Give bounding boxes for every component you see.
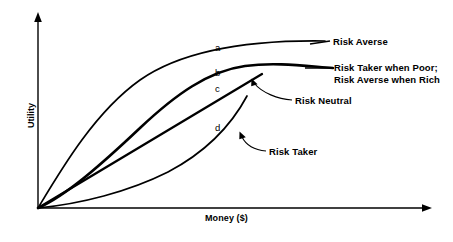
annotation-risk-averse: Risk Averse: [333, 36, 388, 47]
utility-curves-figure: Utility Money ($) a b c d Risk Averse Ri…: [0, 0, 453, 242]
curve-d-risk-taker: [38, 96, 247, 208]
annotation-risk-taker: Risk Taker: [269, 146, 317, 157]
annotation-line-2: Risk Averse when Rich: [334, 74, 440, 86]
curve-label-a: a: [215, 42, 220, 53]
x-axis-arrow-icon: [422, 204, 432, 212]
arrowhead-risk-taker-icon: [239, 132, 246, 140]
curve-c-risk-neutral: [38, 74, 262, 208]
leader-line-risk-neutral: [254, 83, 292, 100]
curve-label-b: b: [215, 67, 220, 78]
y-axis-arrow-icon: [34, 12, 42, 22]
leader-line-risk-taker: [242, 137, 266, 151]
annotation-line-1: Risk Taker when Poor;: [334, 62, 440, 74]
curve-b-risk-taker-poor-averse-rich: [38, 64, 333, 208]
annotation-risk-taker-poor-averse-rich: Risk Taker when Poor; Risk Averse when R…: [334, 62, 440, 86]
x-axis-label: Money ($): [205, 213, 248, 223]
curve-label-d: d: [215, 122, 220, 133]
y-axis-label: Utility: [26, 103, 36, 128]
annotation-risk-neutral: Risk Neutral: [295, 95, 352, 106]
curve-label-c: c: [215, 83, 220, 94]
